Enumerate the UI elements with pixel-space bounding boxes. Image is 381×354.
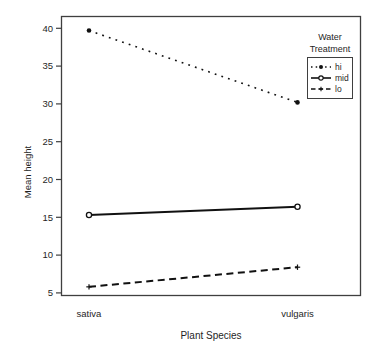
- interaction-plot-figure: 510152025303540sativavulgaris Mean heigh…: [0, 0, 381, 354]
- legend-entry-label: mid: [335, 73, 349, 83]
- series-marker-mid: [86, 212, 91, 217]
- legend-entry-lo: lo: [310, 84, 352, 95]
- x-tick-label-sativa: sativa: [77, 308, 103, 319]
- y-tick-label: 40: [42, 23, 53, 34]
- legend-entry-mid: mid: [310, 73, 352, 84]
- series-marker-hi: [295, 100, 300, 105]
- legend-title: Water Treatment: [299, 31, 361, 55]
- y-tick-label: 30: [42, 98, 53, 109]
- series-marker-mid: [295, 204, 300, 209]
- series-marker-hi: [87, 28, 92, 33]
- legend-sample-solid-line: [310, 73, 332, 83]
- legend-entry-label: hi: [335, 62, 342, 72]
- legend-marker-filled-circle-icon: [319, 65, 323, 69]
- y-tick-label: 35: [42, 60, 53, 71]
- y-tick-label: 15: [42, 212, 53, 223]
- series-line-mid: [89, 207, 298, 215]
- x-tick-label-vulgaris: vulgaris: [281, 308, 314, 319]
- series-line-hi: [89, 31, 298, 103]
- y-tick-label: 20: [42, 174, 53, 185]
- legend-sample-dotted-line: [310, 62, 332, 72]
- legend-box: himidlo: [307, 57, 353, 99]
- y-tick-label: 5: [48, 287, 53, 298]
- legend-marker-open-circle-icon: [319, 76, 323, 80]
- series-line-lo: [89, 267, 298, 287]
- legend-entry-label: lo: [335, 84, 342, 94]
- x-axis-title: Plant Species: [180, 330, 241, 341]
- y-tick-label: 25: [42, 136, 53, 147]
- legend-sample-dashed-line: [310, 84, 332, 94]
- legend-entry-hi: hi: [310, 62, 352, 73]
- y-tick-label: 10: [42, 249, 53, 260]
- y-axis-title: Mean height: [22, 146, 33, 198]
